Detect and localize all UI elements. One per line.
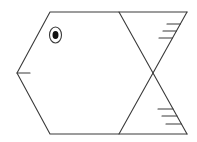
tail-lower-diagonal <box>153 73 187 134</box>
eye-pupil <box>53 31 59 39</box>
tail-upper-diagonal <box>153 12 187 73</box>
fish-diagram <box>0 0 197 142</box>
fish-body-hexagon <box>17 12 153 134</box>
